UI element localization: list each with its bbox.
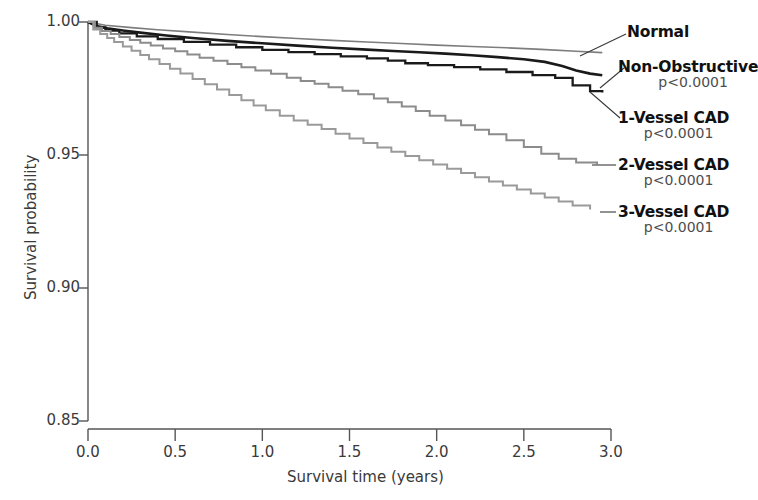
legend-normal: Normal — [627, 24, 689, 40]
x-tick-label: 0.5 — [145, 443, 205, 461]
x-tick-label: 0.0 — [58, 443, 118, 461]
curve-2-vessel-cad — [88, 22, 597, 164]
legend-pvalue-two-vessel: p<0.0001 — [618, 173, 729, 188]
y-tick-label: 0.95 — [28, 145, 80, 163]
legend-three-vessel: 3-Vessel CAD p<0.0001 — [618, 204, 729, 236]
legend-two-vessel: 2-Vessel CAD p<0.0001 — [618, 157, 729, 189]
legend-one-vessel: 1-Vessel CAD p<0.0001 — [618, 110, 729, 142]
x-tick-label: 2.0 — [407, 443, 467, 461]
axis-lines — [88, 22, 611, 429]
y-tick-label: 0.85 — [28, 411, 80, 429]
x-tick-label: 1.5 — [320, 443, 380, 461]
x-axis-ticks — [88, 429, 611, 441]
curve-3-vessel-cad — [88, 22, 590, 210]
legend-label-non-obstructive: Non-Obstructive — [618, 59, 758, 75]
legend-non-obstructive: Non-Obstructive p<0.0001 — [618, 59, 758, 91]
legend-label-two-vessel: 2-Vessel CAD — [618, 157, 729, 173]
leader-line-normal — [580, 34, 626, 56]
legend-pvalue-one-vessel: p<0.0001 — [618, 126, 729, 141]
legend-label-three-vessel: 3-Vessel CAD — [618, 204, 729, 220]
x-tick-label: 1.0 — [232, 443, 292, 461]
x-axis-title: Survival time (years) — [287, 468, 444, 486]
legend-label-normal: Normal — [627, 24, 689, 40]
curve-1-vessel-cad — [88, 22, 602, 92]
x-tick-label: 3.0 — [581, 443, 641, 461]
leader-line-one-vessel — [590, 92, 620, 118]
legend-label-one-vessel: 1-Vessel CAD — [618, 110, 729, 126]
legend-pvalue-three-vessel: p<0.0001 — [618, 220, 729, 235]
y-tick-label: 1.00 — [28, 12, 80, 30]
y-tick-label: 0.90 — [28, 278, 80, 296]
legend-pvalue-non-obstructive: p<0.0001 — [618, 75, 758, 90]
x-tick-label: 2.5 — [494, 443, 554, 461]
survival-curves — [88, 22, 602, 210]
y-axis-ticks — [79, 22, 88, 421]
